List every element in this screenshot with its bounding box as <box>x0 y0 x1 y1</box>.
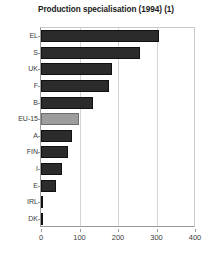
bar-row <box>41 63 195 75</box>
bar-row <box>41 47 195 59</box>
x-axis-tick <box>118 229 119 232</box>
y-axis-tick <box>38 53 41 54</box>
x-axis-label-300: 300 <box>150 233 163 242</box>
y-axis-label-f: F <box>2 82 38 90</box>
x-axis-tick <box>195 229 196 232</box>
bar-fin <box>41 146 68 158</box>
y-axis-labels: ELSUKFBEU-15AFINIEIRLDK <box>0 28 38 227</box>
bar-i <box>41 163 62 175</box>
y-axis-label-irl: IRL <box>2 198 38 206</box>
x-axis-label-100: 100 <box>73 233 86 242</box>
bar-row <box>41 180 195 192</box>
y-axis-tick <box>38 169 41 170</box>
y-axis-label-e: E <box>2 182 38 190</box>
bar-row <box>41 163 195 175</box>
x-axis-tick <box>157 229 158 232</box>
y-axis-tick <box>38 152 41 153</box>
x-axis-tick <box>80 229 81 232</box>
bar-row <box>41 113 195 125</box>
bar-row <box>41 146 195 158</box>
bar-row <box>41 97 195 109</box>
y-axis-label-s: S <box>2 49 38 57</box>
y-axis-tick <box>38 202 41 203</box>
y-axis-label-i: I <box>2 165 38 173</box>
y-axis-label-a: A <box>2 132 38 140</box>
y-axis-label-eu-15: EU-15 <box>2 115 38 123</box>
bar-e <box>41 180 56 192</box>
bars-layer <box>41 28 195 227</box>
y-axis-tick <box>38 69 41 70</box>
y-axis-tick <box>38 86 41 87</box>
y-axis-tick <box>38 136 41 137</box>
y-axis-tick <box>38 119 41 120</box>
y-axis-label-uk: UK <box>2 65 38 73</box>
bar-a <box>41 130 72 142</box>
y-axis-label-el: EL <box>2 32 38 40</box>
bar-b <box>41 97 93 109</box>
bar-chart: Production specialisation (1994) (1) ELS… <box>0 0 212 253</box>
bar-uk <box>41 63 112 75</box>
bar-row <box>41 30 195 42</box>
bar-el <box>41 30 159 42</box>
y-axis-tick <box>38 103 41 104</box>
x-axis-label-400: 400 <box>189 233 202 242</box>
y-axis-label-b: B <box>2 99 38 107</box>
chart-title: Production specialisation (1994) (1) <box>0 5 212 14</box>
y-axis-label-fin: FIN <box>2 148 38 156</box>
bar-irl <box>41 196 43 208</box>
y-axis-tick <box>38 219 41 220</box>
x-axis-label-200: 200 <box>112 233 125 242</box>
x-axis-tick <box>41 229 42 232</box>
x-axis-label-0: 0 <box>39 233 43 242</box>
bar-s <box>41 47 140 59</box>
bar-row <box>41 196 195 208</box>
bar-row <box>41 130 195 142</box>
y-axis-tick <box>38 36 41 37</box>
y-axis-label-dk: DK <box>2 215 38 223</box>
bar-eu-15 <box>41 113 79 125</box>
bar-row <box>41 80 195 92</box>
x-axis-labels: 0100200300400 <box>0 229 212 247</box>
bar-dk <box>41 213 43 225</box>
bar-f <box>41 80 109 92</box>
y-axis-tick <box>38 186 41 187</box>
bar-row <box>41 213 195 225</box>
